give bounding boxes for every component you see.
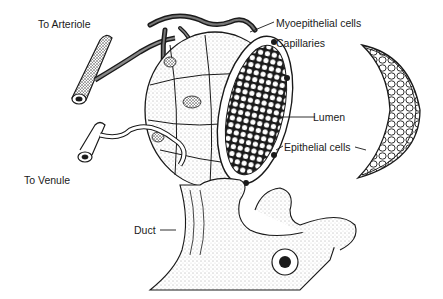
- label-capillaries: Capillaries: [276, 38, 325, 49]
- label-epithelial-cells: Epithelial cells: [284, 142, 351, 153]
- acinus-illustration: [0, 0, 443, 299]
- label-to-arteriole: To Arteriole: [38, 19, 91, 30]
- label-duct: Duct: [134, 225, 156, 236]
- duct: [150, 178, 356, 290]
- label-lumen: Lumen: [313, 112, 345, 123]
- label-to-venule: To Venule: [24, 175, 70, 186]
- label-myoepithelial-cells: Myoepithelial cells: [276, 18, 361, 29]
- epithelium-section-detail: [358, 45, 420, 178]
- diagram-canvas: To Arteriole Myoepithelial cells Capilla…: [0, 0, 443, 299]
- leader-epithelial-detail: [355, 147, 366, 150]
